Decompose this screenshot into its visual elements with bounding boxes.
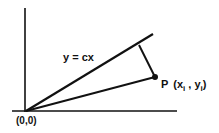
point-p-label: P (xi , yi): [161, 78, 207, 93]
origin-label: (0,0): [16, 115, 37, 126]
line-label: y = cx: [63, 51, 95, 63]
point-p: [152, 74, 158, 80]
line-y-equals-cx: [26, 34, 153, 111]
segment-origin-to-p: [26, 77, 155, 111]
perpendicular-segment: [139, 45, 155, 77]
projection-diagram: y = cx P (xi , yi) (0,0): [0, 0, 219, 133]
point-prefix: P: [161, 78, 168, 90]
